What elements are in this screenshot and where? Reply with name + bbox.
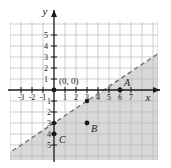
point-c xyxy=(52,132,57,137)
y-axis-arrowhead xyxy=(51,10,57,17)
x-tick-label-6: 6 xyxy=(118,93,122,102)
y-tick-label-1: 1 xyxy=(44,75,48,84)
x-tick-label-neg2: -2 xyxy=(29,93,36,102)
x-tick-label-neg3: -3 xyxy=(18,93,25,102)
coordinate-plane-figure: -3 -2 -1 1 2 3 4 5 6 7 5 4 3 2 1 1 2 3 4… xyxy=(0,0,171,168)
x-tick-label-7: 7 xyxy=(129,93,133,102)
point-y-intercept xyxy=(52,121,56,125)
x-axis-label: x xyxy=(145,91,151,103)
graph-svg: -3 -2 -1 1 2 3 4 5 6 7 5 4 3 2 1 1 2 3 4… xyxy=(0,0,171,168)
y-tick-label-neg4: 4 xyxy=(47,130,51,139)
point-origin xyxy=(52,88,57,93)
x-tick-label-neg1: -1 xyxy=(40,93,47,102)
y-tick-label-3: 3 xyxy=(44,53,48,62)
x-tick-label-1: 1 xyxy=(63,93,67,102)
x-tick-label-4: 4 xyxy=(96,93,100,102)
point-a xyxy=(118,88,123,93)
point-on-line xyxy=(85,99,89,103)
point-b-label: B xyxy=(91,123,97,134)
point-a-label: A xyxy=(123,77,131,88)
origin-label: (0, 0) xyxy=(59,76,79,86)
x-tick-label-2: 2 xyxy=(74,93,78,102)
y-tick-label-neg1: 1 xyxy=(47,97,51,106)
y-tick-label-4: 4 xyxy=(44,42,48,51)
y-tick-label-neg5: 5 xyxy=(47,141,51,150)
y-tick-label-2: 2 xyxy=(44,64,48,73)
y-tick-label-5: 5 xyxy=(44,31,48,40)
point-b xyxy=(85,121,90,126)
x-tick-label-5: 5 xyxy=(107,93,111,102)
point-c-label: C xyxy=(59,134,66,145)
y-axis-label: y xyxy=(42,5,48,17)
y-tick-label-neg3: 3 xyxy=(47,119,51,128)
y-tick-label-neg2: 2 xyxy=(47,108,51,117)
